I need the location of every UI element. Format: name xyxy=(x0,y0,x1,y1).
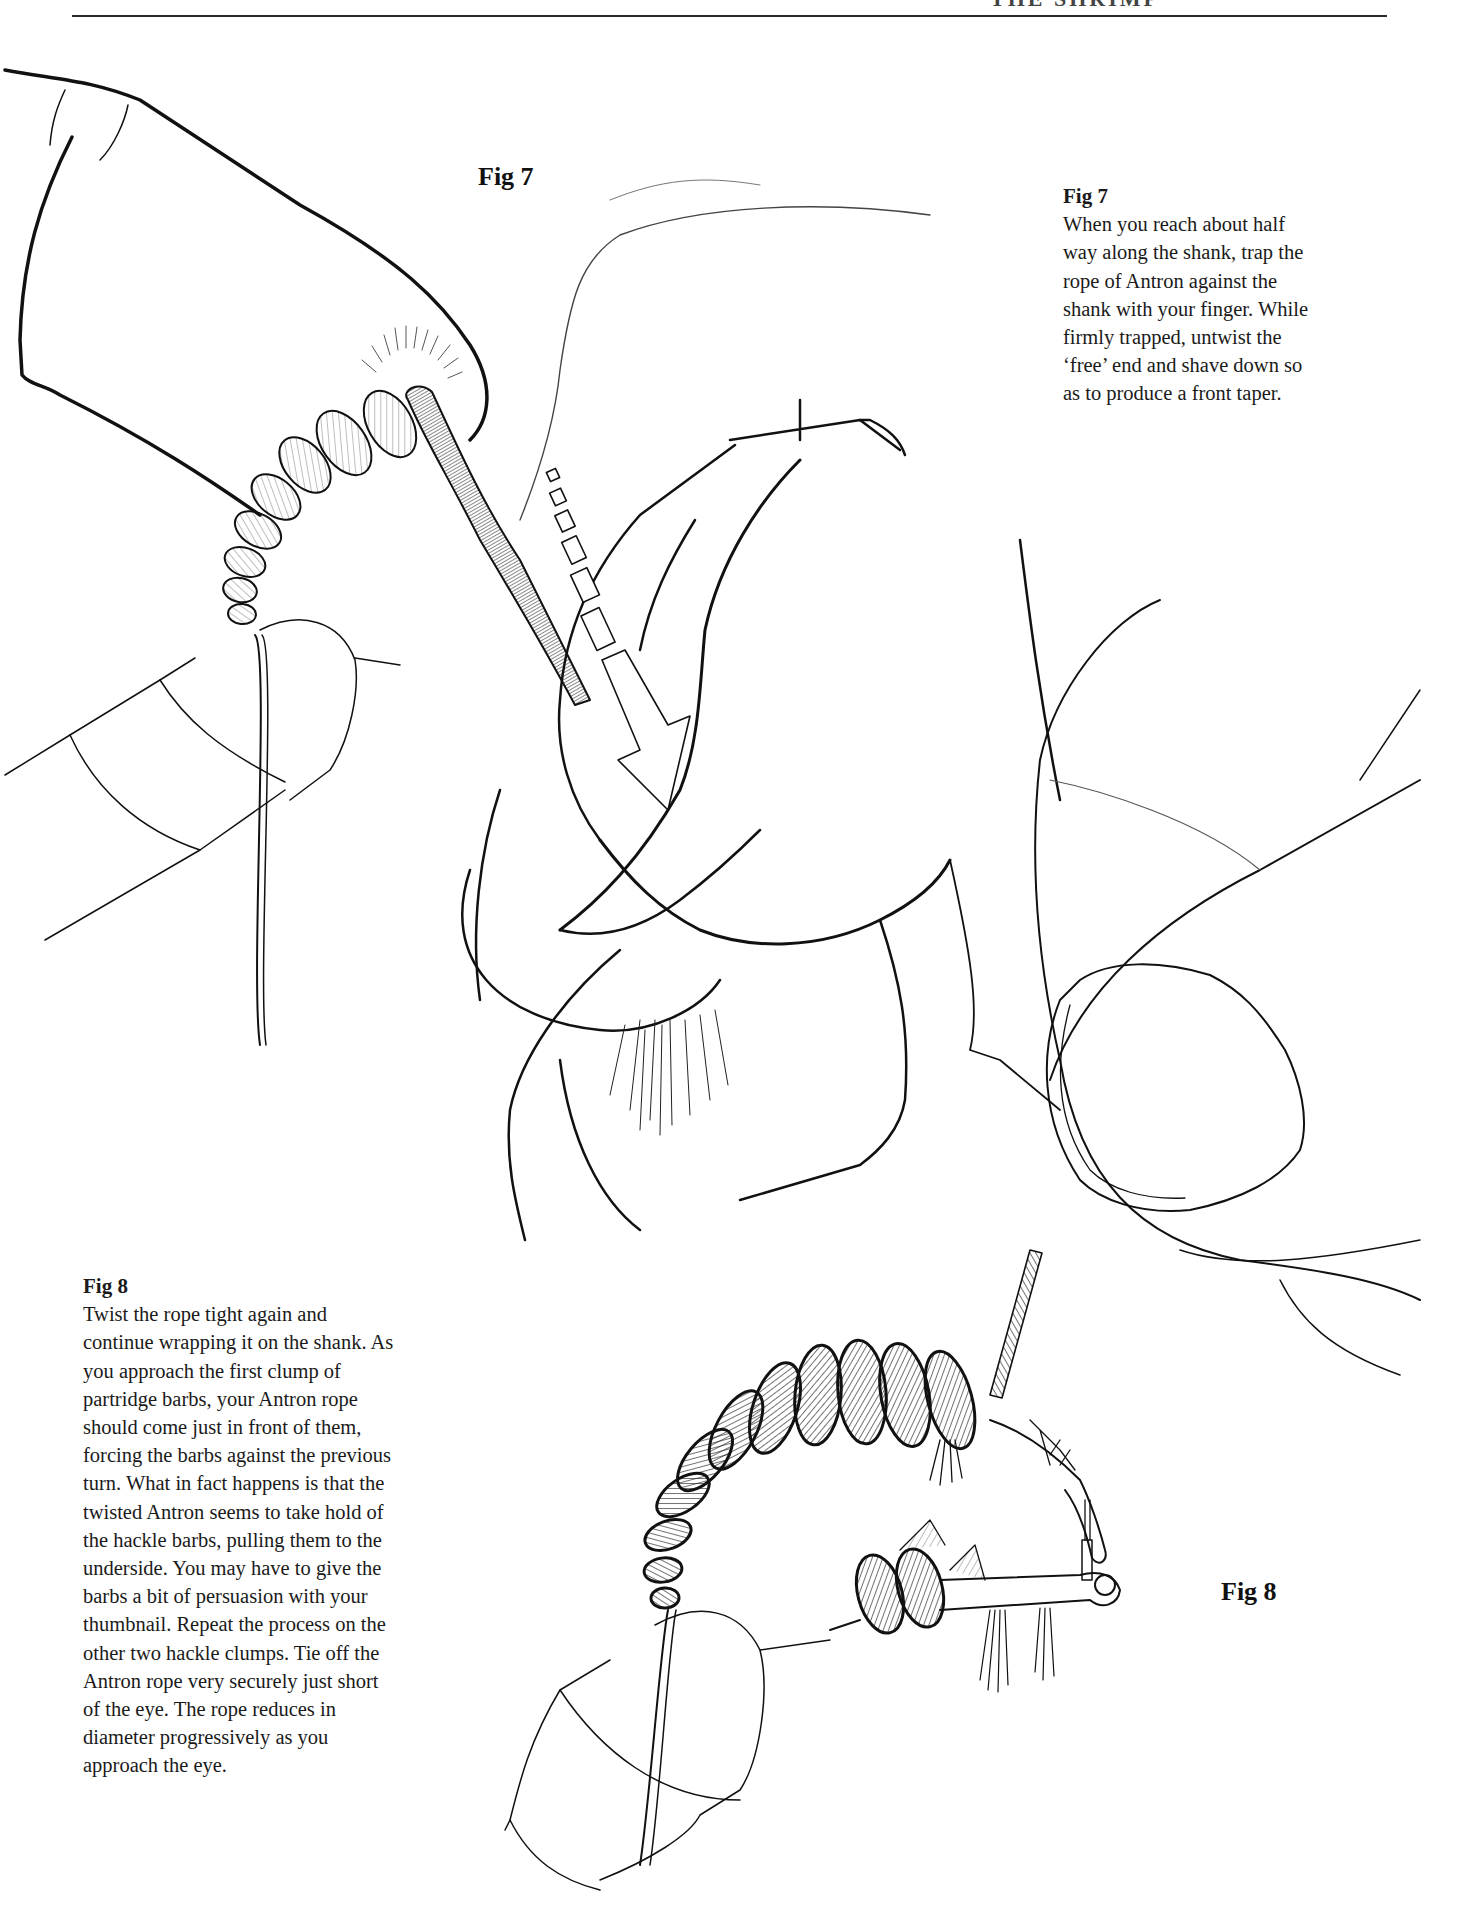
caption-line: the hackle barbs, pulling them to the xyxy=(83,1526,393,1554)
caption-line: other two hackle clumps. Tie off the xyxy=(83,1639,393,1667)
caption-line: barbs a bit of persuasion with your xyxy=(83,1582,393,1610)
caption-line: continue wrapping it on the shank. As xyxy=(83,1328,393,1356)
caption-line: approach the eye. xyxy=(83,1751,393,1779)
caption-line: ‘free’ end and shave down so xyxy=(1063,351,1308,379)
caption-line: rope of Antron against the xyxy=(1063,267,1308,295)
fig8-caption-title: Fig 8 xyxy=(83,1272,393,1300)
fig7-label: Fig 7 xyxy=(478,162,534,192)
caption-line: forcing the barbs against the previous xyxy=(83,1441,393,1469)
caption-line: thumbnail. Repeat the process on the xyxy=(83,1610,393,1638)
caption-line: partridge barbs, your Antron rope xyxy=(83,1385,393,1413)
fig7-caption-title: Fig 7 xyxy=(1063,182,1308,210)
caption-line: twisted Antron seems to take hold of xyxy=(83,1498,393,1526)
caption-line: way along the shank, trap the xyxy=(1063,238,1308,266)
caption-line: turn. What in fact happens is that the xyxy=(83,1469,393,1497)
fig8-label: Fig 8 xyxy=(1221,1577,1277,1607)
caption-line: of the eye. The rope reduces in xyxy=(83,1695,393,1723)
caption-line: When you reach about half xyxy=(1063,210,1308,238)
fig8-illustration xyxy=(505,1240,1420,1890)
caption-line: diameter progressively as you xyxy=(83,1723,393,1751)
fig8-caption: Fig 8 Twist the rope tight again and con… xyxy=(83,1272,393,1780)
caption-line: firmly trapped, untwist the xyxy=(1063,323,1308,351)
caption-line: underside. You may have to give the xyxy=(83,1554,393,1582)
caption-line: shank with your finger. While xyxy=(1063,295,1308,323)
fig7-caption: Fig 7 When you reach about half way alon… xyxy=(1063,182,1308,408)
caption-line: as to produce a front taper. xyxy=(1063,379,1308,407)
caption-line: Twist the rope tight again and xyxy=(83,1300,393,1328)
caption-line: you approach the first clump of xyxy=(83,1357,393,1385)
caption-line: should come just in front of them, xyxy=(83,1413,393,1441)
caption-line: Antron rope very securely just short xyxy=(83,1667,393,1695)
